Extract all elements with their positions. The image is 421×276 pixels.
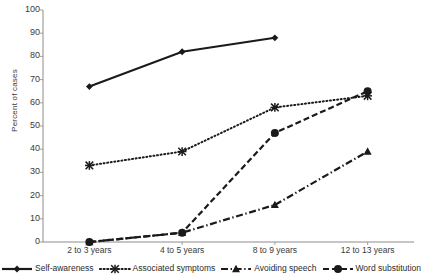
legend-label: Word substitution: [356, 264, 421, 273]
legend-swatch-x-icon: [98, 263, 132, 275]
data-point-marker-x: [85, 161, 94, 170]
legend-label: Associated symptoms: [133, 264, 216, 273]
series-self-awareness: [86, 34, 278, 90]
series-avoiding-speech: [85, 147, 371, 245]
data-point-marker-circle: [85, 238, 93, 246]
data-point-marker-circle: [271, 129, 279, 137]
data-point-marker-diamond: [179, 48, 186, 55]
data-point-marker-x: [271, 103, 280, 112]
line-chart: Percent of cases 0102030405060708090100 …: [0, 0, 421, 276]
legend-label: Self-awareness: [35, 264, 94, 273]
legend-item-avoiding-speech[interactable]: Avoiding speech: [219, 263, 316, 275]
legend-swatch-diamond-icon: [0, 263, 34, 275]
data-point-marker-diamond: [86, 83, 93, 90]
data-point-marker-diamond: [14, 265, 21, 272]
legend-swatch-triangle-icon: [219, 263, 253, 275]
plot-area: [0, 0, 421, 276]
legend-item-self-awareness[interactable]: Self-awareness: [0, 263, 94, 275]
data-point-marker-diamond: [271, 34, 278, 41]
series-word-substitution: [85, 87, 371, 246]
data-point-marker-triangle: [364, 147, 372, 154]
data-point-marker-x: [178, 147, 187, 156]
legend-label: Avoiding speech: [254, 264, 316, 273]
legend-item-word-substitution[interactable]: Word substitution: [321, 263, 421, 275]
chart-legend: Self-awarenessAssociated symptomsAvoidin…: [0, 261, 421, 276]
series-associated-symptoms: [85, 91, 372, 169]
legend-swatch-circle-icon: [321, 263, 355, 275]
data-point-marker-x: [110, 264, 119, 273]
data-point-marker-circle: [364, 87, 372, 95]
legend-item-associated-symptoms[interactable]: Associated symptoms: [98, 263, 216, 275]
data-point-marker-circle: [178, 229, 186, 237]
data-point-marker-circle: [334, 265, 342, 273]
